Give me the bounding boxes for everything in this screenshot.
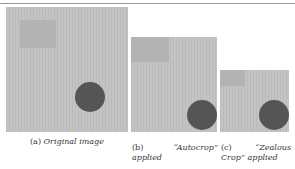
caption-a-text: Original image	[44, 137, 104, 146]
dark-disc	[259, 100, 289, 130]
caption-b: (b) “Autocrop” applied	[132, 143, 218, 163]
caption-c-label: (c)	[221, 143, 232, 152]
caption-c-line2: Crop” applied	[221, 153, 278, 162]
gray-square	[131, 37, 169, 62]
gray-square	[220, 70, 245, 86]
dark-disc	[187, 100, 217, 130]
caption-b-line1: “Autocrop”	[174, 143, 218, 153]
top-rule	[0, 3, 295, 4]
caption-a-label: (a)	[30, 137, 41, 146]
autocrop-image	[131, 37, 217, 132]
dark-disc	[75, 82, 105, 112]
caption-b-line2: applied	[132, 153, 162, 162]
original-image	[6, 7, 128, 132]
gray-square	[20, 20, 56, 48]
caption-c: (c) “Zealous Crop” applied	[221, 143, 291, 163]
caption-b-label: (b)	[132, 143, 143, 152]
caption-a: (a) Original image	[30, 137, 104, 147]
caption-c-line1: “Zealous	[255, 143, 291, 153]
zealous-crop-image	[220, 70, 289, 132]
